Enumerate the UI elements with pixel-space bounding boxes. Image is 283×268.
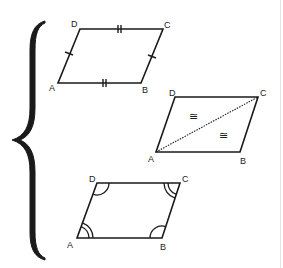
vertex-label-b: B <box>142 85 148 95</box>
diagram-canvas: A B C D ≅ ≅ A B C D A B C D <box>0 0 283 268</box>
vertex-label-a: A <box>148 154 154 164</box>
vertex-label-c: C <box>182 174 189 184</box>
angle-arc <box>164 183 175 198</box>
vertex-label-d: D <box>169 88 176 98</box>
parallelogram-angles: A B C D <box>67 174 189 252</box>
vertex-label-c: C <box>164 20 171 30</box>
vertex-label-d: D <box>71 19 78 29</box>
vertex-label-a: A <box>67 240 73 250</box>
angle-arc <box>81 227 89 238</box>
vertex-label-d: D <box>89 174 96 184</box>
vertex-label-a: A <box>49 83 55 93</box>
vertex-label-b: B <box>240 156 246 166</box>
vertex-label-b: B <box>160 242 166 252</box>
left-curly-brace <box>12 21 45 260</box>
congruent-symbol: ≅ <box>189 110 198 123</box>
congruent-symbol: ≅ <box>219 129 228 142</box>
parallelogram-diagonal: ≅ ≅ A B C D <box>148 88 267 166</box>
angle-arc <box>168 183 176 194</box>
parallelogram-sides: A B C D <box>49 19 171 95</box>
angle-arc <box>83 223 94 238</box>
vertex-label-c: C <box>260 88 267 98</box>
